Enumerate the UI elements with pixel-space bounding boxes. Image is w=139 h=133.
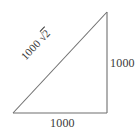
triangle-figure: 1000 1000 1000√2 [0, 0, 139, 133]
vertical-leg-label: 1000 [110, 57, 135, 69]
horizontal-leg-label: 1000 [50, 117, 75, 129]
